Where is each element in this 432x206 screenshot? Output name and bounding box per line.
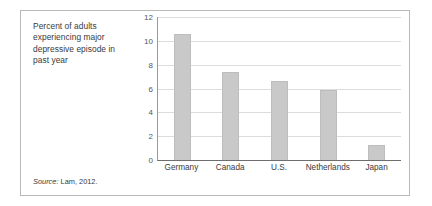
y-tick-label: 6 (149, 84, 153, 93)
bar-slot (304, 17, 353, 160)
source-note: Source: Lam, 2012. (33, 177, 98, 186)
bar-slot (255, 17, 304, 160)
chart-caption-text: Percent of adults experiencing major dep… (33, 21, 133, 67)
x-tick-label: Germany (157, 163, 206, 172)
x-tick-label: Canada (206, 163, 255, 172)
bar-slot (352, 17, 401, 160)
y-tick-label: 2 (149, 132, 153, 141)
y-tick-label: 10 (144, 36, 153, 45)
bar-canada (222, 72, 239, 160)
source-value: Lam, 2012. (58, 177, 97, 186)
y-tick-label: 0 (149, 156, 153, 165)
bar-netherlands (320, 90, 337, 160)
bar-germany (174, 34, 191, 160)
source-label: Source: (33, 177, 58, 186)
y-tick-label: 12 (144, 13, 153, 22)
bar-u-s (271, 81, 288, 160)
x-tick-label: Netherlands (303, 163, 352, 172)
bar-series (158, 17, 401, 160)
chart-caption: Percent of adults experiencing major dep… (33, 21, 133, 67)
x-tick-label: U.S. (255, 163, 304, 172)
y-tick-label: 4 (149, 108, 153, 117)
x-axis: GermanyCanadaU.S.NetherlandsJapan (157, 163, 401, 172)
bar-slot (207, 17, 256, 160)
bar-japan (368, 145, 385, 160)
x-tick-label: Japan (352, 163, 401, 172)
y-axis: 024681012 (133, 17, 153, 160)
y-tick-label: 8 (149, 60, 153, 69)
figure-frame: Percent of adults experiencing major dep… (20, 10, 410, 196)
bar-chart: 024681012 GermanyCanadaU.S.NetherlandsJa… (133, 17, 401, 182)
bar-slot (158, 17, 207, 160)
plot-area (157, 17, 401, 161)
